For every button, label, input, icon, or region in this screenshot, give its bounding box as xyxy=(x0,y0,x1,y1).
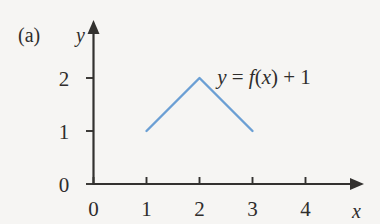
equation-part-one: 1 xyxy=(300,65,311,89)
x-tick-label-3: 3 xyxy=(247,197,258,221)
equation-part-equals: = xyxy=(226,65,248,89)
x-axis-label: x xyxy=(351,200,361,222)
x-axis-arrow-icon xyxy=(350,178,364,190)
y-axis-arrow-icon xyxy=(88,20,100,34)
x-tick-label-1: 1 xyxy=(141,197,152,221)
x-tick-label-0: 0 xyxy=(88,197,99,221)
equation-part-y: y xyxy=(215,65,227,89)
chart-canvas: (a) y x 2 1 0 0 1 2 3 4 xyxy=(0,0,380,224)
equation-annotation: y = f(x) + 1 xyxy=(215,65,311,89)
x-tick-label-2: 2 xyxy=(194,197,205,221)
equation-part-close-paren: ) xyxy=(271,65,278,89)
y-axis-label: y xyxy=(74,24,85,47)
panel-label: (a) xyxy=(18,24,40,47)
equation-part-plus: + xyxy=(278,65,300,89)
y-tick-label-0: 0 xyxy=(59,173,70,197)
x-tick-label-4: 4 xyxy=(300,197,311,221)
y-tick-label-1: 1 xyxy=(59,120,70,144)
figure-panel: (a) y x 2 1 0 0 1 2 3 4 xyxy=(0,0,380,224)
y-tick-label-2: 2 xyxy=(59,67,70,91)
equation-part-open-paren: ( xyxy=(255,65,262,89)
